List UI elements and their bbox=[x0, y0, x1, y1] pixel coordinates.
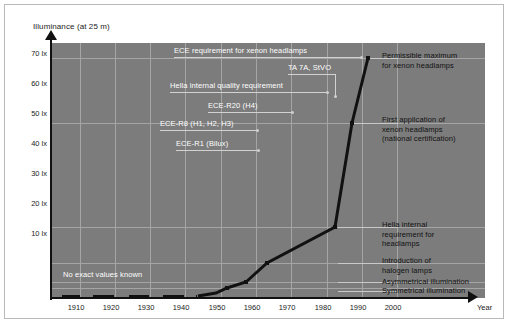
leader-line bbox=[176, 150, 259, 151]
y-tick-70: 70 lx bbox=[13, 49, 47, 59]
y-tick-label: 60 lx bbox=[15, 79, 47, 88]
callout-line-3: headlamps bbox=[382, 239, 420, 248]
leader-line bbox=[170, 92, 328, 93]
y-tick-label: 40 lx bbox=[15, 139, 47, 148]
leader-dot bbox=[360, 56, 363, 59]
y-tick-60: 60 lx bbox=[13, 79, 47, 89]
y-tick-40: 40 lx bbox=[13, 139, 47, 149]
y-tick-label: 70 lx bbox=[15, 49, 47, 58]
leader-dot bbox=[256, 129, 259, 132]
x-tick-1980: 1980 bbox=[306, 303, 340, 312]
x-tick-1960: 1960 bbox=[235, 303, 269, 312]
x-axis-arrow bbox=[468, 291, 478, 303]
leader-dot bbox=[326, 91, 329, 94]
callout-ece-r1-bilux: ECE-R1 (Bilux) bbox=[176, 139, 228, 149]
callout-ece-r8: ECE-R8 (H1, H2, H3) bbox=[160, 119, 234, 129]
callout-line-1: Hella internal bbox=[382, 220, 427, 229]
callout-line-2: xenon headlamps bbox=[382, 125, 443, 134]
callout-ece-requirement-xenon: ECE requirement for xenon headlamps bbox=[174, 46, 307, 56]
chart-screenshot: Illuminance (at 25 m) bbox=[0, 0, 509, 324]
callout-introduction-halogen: Introduction of halogen lamps bbox=[382, 256, 432, 275]
x-tick-1950: 1950 bbox=[200, 303, 234, 312]
y-tick-20: 20 lx bbox=[13, 199, 47, 209]
x-tick-1990: 1990 bbox=[341, 303, 375, 312]
callout-line-2: halogen lamps bbox=[382, 266, 432, 275]
callout-line-1: First application of bbox=[382, 115, 445, 124]
callout-first-application-xenon: First application of xenon headlamps (na… bbox=[382, 115, 456, 144]
plot-area: No exact values known ECE requirement fo… bbox=[50, 43, 485, 298]
y-axis-line bbox=[50, 38, 52, 300]
x-tick-1910: 1910 bbox=[59, 303, 93, 312]
y-tick-label: 30 lx bbox=[15, 169, 47, 178]
y-tick-label: 20 lx bbox=[15, 199, 47, 208]
y-tick-30: 30 lx bbox=[13, 169, 47, 179]
x-tick-1930: 1930 bbox=[129, 303, 163, 312]
no-exact-values-label: No exact values known bbox=[63, 270, 142, 279]
callout-hella-internal-quality: Hella internal quality requirement bbox=[170, 81, 283, 91]
callout-ece-r20-h4: ECE-R20 (H4) bbox=[208, 101, 258, 111]
callout-line-3: (national certification) bbox=[382, 134, 456, 143]
leader-line bbox=[160, 130, 258, 131]
leader-dot bbox=[257, 149, 260, 152]
x-axis-line bbox=[50, 297, 470, 299]
callout-hella-internal-requirement: Hella internal requirement for headlamps bbox=[382, 220, 434, 249]
leader-line bbox=[288, 74, 335, 75]
callout-line-2: requirement for bbox=[382, 230, 434, 239]
leader-line bbox=[208, 112, 293, 113]
leader-dot bbox=[291, 111, 294, 114]
y-tick-50: 50 lx bbox=[13, 109, 47, 119]
callout-permissible-maximum: Permissible maximum for xenon headlamps bbox=[382, 51, 457, 70]
y-axis-arrow bbox=[45, 30, 57, 40]
x-tick-2000: 2000 bbox=[376, 303, 410, 312]
leader-line bbox=[174, 57, 362, 58]
callout-line-2: for xenon headlamps bbox=[382, 61, 454, 70]
callout-line-1: Introduction of bbox=[382, 256, 431, 265]
callout-ta-7a-stvo: TA 7A, StVO bbox=[288, 63, 331, 73]
callout-symmetrical-illumination: Symmetrical illumination bbox=[382, 286, 465, 296]
y-tick-label: 10 lx bbox=[15, 229, 47, 238]
x-axis-title: Year bbox=[477, 303, 492, 312]
leader-dot bbox=[334, 95, 337, 98]
chart-frame: Illuminance (at 25 m) bbox=[4, 4, 504, 319]
x-tick-1970: 1970 bbox=[270, 303, 304, 312]
leader-line-vertical bbox=[335, 74, 336, 96]
callout-line-1: Permissible maximum bbox=[382, 51, 457, 60]
y-tick-10: 10 lx bbox=[13, 229, 47, 239]
x-tick-1940: 1940 bbox=[164, 303, 198, 312]
y-tick-label: 50 lx bbox=[15, 109, 47, 118]
x-tick-1920: 1920 bbox=[94, 303, 128, 312]
